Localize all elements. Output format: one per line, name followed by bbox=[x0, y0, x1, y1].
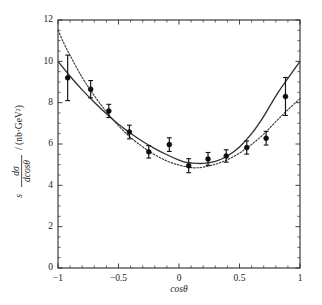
y-tick-label: 4 bbox=[48, 180, 53, 190]
data-point-marker bbox=[244, 145, 249, 150]
data-point-marker bbox=[146, 149, 151, 154]
y-tick-label: 12 bbox=[44, 14, 54, 24]
data-point-marker bbox=[283, 94, 288, 99]
y-tick-label: 0 bbox=[48, 262, 53, 272]
data-markers bbox=[65, 75, 288, 168]
x-tick-label: −1 bbox=[53, 273, 63, 283]
x-tick-labels: −1−0.500.51 bbox=[53, 273, 303, 283]
y-tick-label: 2 bbox=[48, 221, 53, 231]
scatter-plot: −1−0.500.51 024681012 cosθ s dσ dcosθ / … bbox=[0, 0, 322, 305]
plot-frame bbox=[58, 20, 300, 268]
y-tick-label: 10 bbox=[44, 56, 54, 66]
x-tick-label: 0.5 bbox=[234, 273, 246, 283]
x-axis-label-text: cosθ bbox=[170, 284, 188, 294]
error-bars bbox=[65, 55, 288, 173]
y-tick-label: 6 bbox=[48, 138, 53, 148]
solid-model-curve bbox=[58, 61, 300, 163]
y-tick-label: 8 bbox=[48, 97, 53, 107]
data-point-marker bbox=[224, 153, 229, 158]
y-axis-label-numerator: dσ bbox=[11, 166, 21, 176]
y-axis-label-units: / (nb·GeV²) bbox=[14, 105, 25, 150]
y-axis-label-s: s bbox=[14, 194, 24, 198]
dotted-model-curve bbox=[58, 30, 300, 168]
data-point-marker bbox=[127, 130, 132, 135]
model-curves bbox=[58, 30, 300, 168]
figure-container: −1−0.500.51 024681012 cosθ s dσ dcosθ / … bbox=[0, 0, 322, 305]
y-axis-label: s dσ dcosθ / (nb·GeV²) bbox=[11, 105, 32, 198]
data-point-marker bbox=[65, 75, 70, 80]
x-tick-label: −0.5 bbox=[110, 273, 127, 283]
data-point-marker bbox=[186, 163, 191, 168]
data-point-marker bbox=[88, 87, 93, 92]
x-tick-label: 0 bbox=[177, 273, 182, 283]
y-axis-label-denominator: dcosθ bbox=[22, 160, 32, 182]
data-point-marker bbox=[206, 156, 211, 161]
minor-ticks bbox=[58, 20, 300, 268]
major-ticks bbox=[58, 20, 300, 268]
data-point-marker bbox=[167, 142, 172, 147]
x-tick-label: 1 bbox=[298, 273, 303, 283]
y-tick-labels: 024681012 bbox=[44, 14, 54, 272]
data-point-marker bbox=[264, 136, 269, 141]
x-axis-label: cosθ bbox=[170, 284, 188, 294]
data-point-marker bbox=[106, 108, 111, 113]
